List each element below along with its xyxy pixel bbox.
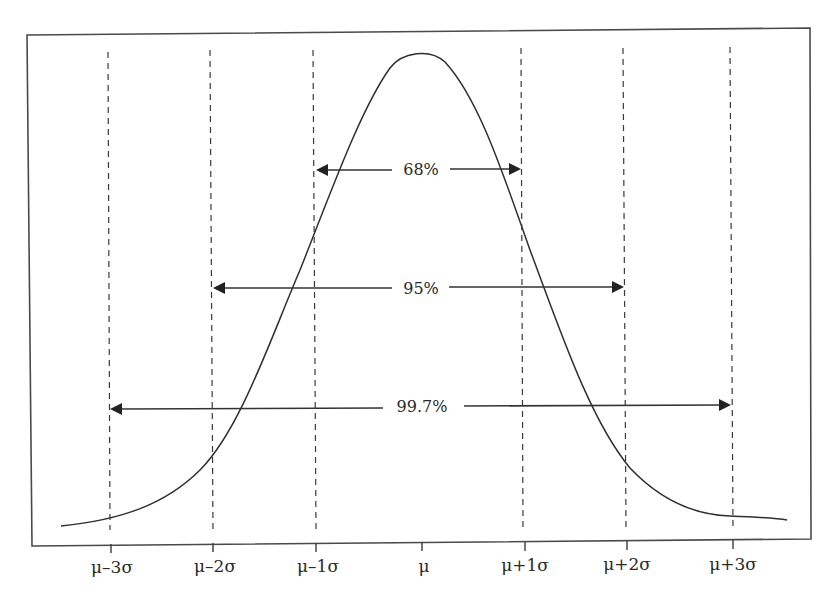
tick-label-mu: μ <box>418 556 429 576</box>
axis-tick-labels: μ–3σ μ–2σ μ–1σ μ μ+1σ μ+2σ μ+3σ <box>91 554 757 577</box>
guide-minus-1sigma <box>313 50 316 530</box>
tick-label-plus-3sigma: μ+3σ <box>709 554 757 574</box>
guide-plus-3sigma <box>730 47 733 527</box>
tick-label-minus-3sigma: μ–3σ <box>91 557 133 577</box>
tick-label-minus-1sigma: μ–1σ <box>297 556 339 576</box>
interval-95: 95% <box>213 279 624 298</box>
interval-99-7-label: 99.7% <box>397 397 448 416</box>
arrow-left-icon <box>316 164 328 176</box>
guide-minus-3sigma <box>108 52 110 530</box>
arrow-right-icon <box>612 281 624 293</box>
interval-99-7: 99.7% <box>110 397 731 416</box>
guide-plus-1sigma <box>521 48 523 528</box>
arrow-right-icon <box>509 163 521 175</box>
tick-label-plus-1sigma: μ+1σ <box>501 555 549 575</box>
interval-68-label: 68% <box>403 160 439 179</box>
interval-68: 68% <box>316 160 521 179</box>
normal-distribution-diagram: μ–3σ μ–2σ μ–1σ μ μ+1σ μ+2σ μ+3σ 68% 95% <box>0 0 838 605</box>
tick-label-plus-2sigma: μ+2σ <box>603 554 651 574</box>
tick-label-minus-2sigma: μ–2σ <box>194 556 236 576</box>
diagram-canvas: μ–3σ μ–2σ μ–1σ μ μ+1σ μ+2σ μ+3σ 68% 95% <box>0 0 838 605</box>
arrow-right-icon <box>719 399 731 411</box>
guide-plus-2sigma <box>623 48 626 527</box>
interval-95-label: 95% <box>403 279 439 298</box>
arrow-left-icon <box>110 403 122 415</box>
arrow-left-icon <box>213 282 225 294</box>
